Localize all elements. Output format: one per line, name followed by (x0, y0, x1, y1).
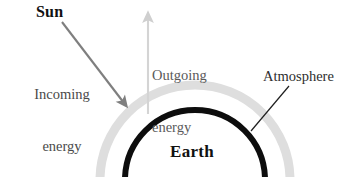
outgoing-energy-label-line1: Outgoing (152, 67, 207, 84)
earth-label: Earth (170, 142, 214, 162)
atmosphere-label: Atmosphere (263, 68, 334, 85)
diagram-canvas: Sun Incoming energy Outgoing energy Atmo… (0, 0, 361, 177)
outgoing-energy-label-line2: energy (152, 119, 207, 136)
incoming-energy-label-line2: energy (14, 138, 110, 155)
incoming-energy-label-line1: Incoming (14, 86, 110, 103)
sun-label: Sun (36, 3, 63, 22)
incoming-energy-label: Incoming energy (14, 52, 110, 177)
